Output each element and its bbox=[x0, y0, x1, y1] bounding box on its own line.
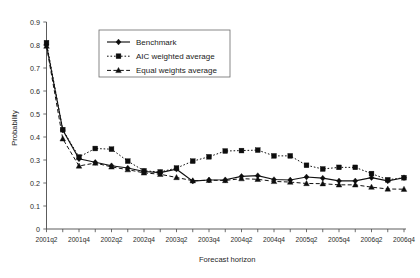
data-point-marker bbox=[304, 163, 309, 168]
y-axis-tick-labels: 00.10.20.30.40.50.60.70.80.9 bbox=[30, 18, 40, 234]
y-axis-tick-label: 0.2 bbox=[30, 179, 40, 188]
y-axis-tick-label: 0 bbox=[36, 225, 40, 234]
x-axis-tick-label: 2002q4 bbox=[133, 236, 155, 244]
data-point-marker bbox=[352, 182, 358, 187]
x-axis-tick-label: 2006q4 bbox=[393, 236, 415, 244]
legend-item-label: Benchmark bbox=[136, 38, 177, 47]
data-point-marker bbox=[77, 155, 82, 160]
x-axis-tick-label: 2005q4 bbox=[328, 236, 350, 244]
chart-container: 00.10.20.30.40.50.60.70.80.9 2001q22001q… bbox=[0, 0, 420, 278]
y-axis-tick-label: 0.5 bbox=[30, 110, 40, 119]
y-axis-tick-marks bbox=[43, 22, 46, 229]
data-point-marker bbox=[93, 146, 98, 151]
probability-line-chart: 00.10.20.30.40.50.60.70.80.9 2001q22001q… bbox=[0, 0, 420, 278]
x-axis-tick-label: 2003q4 bbox=[198, 236, 220, 244]
data-point-marker bbox=[385, 177, 390, 182]
y-axis-title: Probability bbox=[10, 110, 19, 146]
data-point-marker bbox=[190, 159, 195, 164]
y-axis-tick-label: 0.6 bbox=[30, 87, 40, 96]
data-point-marker bbox=[255, 148, 260, 153]
x-axis-tick-label: 2005q2 bbox=[295, 236, 317, 244]
x-axis-tick-label: 2006q2 bbox=[360, 236, 382, 244]
x-axis-tick-label: 2004q2 bbox=[230, 236, 252, 244]
y-axis-tick-label: 0.3 bbox=[30, 156, 40, 165]
data-point-marker bbox=[239, 148, 244, 153]
x-axis-tick-label: 2001q2 bbox=[35, 236, 57, 244]
legend-item-label: AIC weighted average bbox=[136, 52, 215, 61]
y-axis-tick-label: 0.8 bbox=[30, 41, 40, 50]
legend-marker bbox=[116, 54, 121, 59]
y-axis-tick-label: 0.1 bbox=[30, 202, 40, 211]
data-point-marker bbox=[353, 165, 358, 170]
data-point-marker bbox=[320, 167, 325, 172]
y-axis-tick-label: 0.9 bbox=[30, 18, 40, 27]
data-point-marker bbox=[60, 136, 66, 141]
data-point-marker bbox=[207, 154, 212, 159]
data-point-marker bbox=[125, 159, 130, 164]
data-point-marker bbox=[288, 153, 293, 158]
legend-item-label: Equal weights average bbox=[136, 66, 217, 75]
x-axis-tick-label: 2004q4 bbox=[263, 236, 285, 244]
data-point-marker bbox=[174, 166, 179, 171]
x-axis-tick-label: 2002q2 bbox=[100, 236, 122, 244]
data-point-marker bbox=[369, 171, 374, 176]
data-point-marker bbox=[174, 174, 180, 179]
x-axis-tick-marks bbox=[47, 229, 405, 232]
y-axis-tick-label: 0.7 bbox=[30, 64, 40, 73]
data-point-marker bbox=[320, 175, 325, 181]
x-axis-tick-label: 2003q2 bbox=[165, 236, 187, 244]
x-axis-title: Forecast horizon bbox=[199, 255, 256, 264]
data-point-marker bbox=[402, 175, 407, 180]
data-point-marker bbox=[320, 181, 326, 186]
x-axis-tick-labels: 2001q22001q42002q22002q42003q22003q42004… bbox=[35, 236, 415, 244]
data-point-marker bbox=[304, 174, 309, 180]
data-point-marker bbox=[223, 149, 228, 154]
data-point-marker bbox=[337, 165, 342, 170]
y-axis-tick-label: 0.4 bbox=[30, 133, 40, 142]
x-axis-tick-label: 2001q4 bbox=[68, 236, 90, 244]
data-point-marker bbox=[76, 163, 82, 168]
chart-legend: BenchmarkAIC weighted averageEqual weigh… bbox=[99, 30, 230, 77]
data-point-marker bbox=[109, 147, 114, 152]
data-point-marker bbox=[272, 153, 277, 158]
